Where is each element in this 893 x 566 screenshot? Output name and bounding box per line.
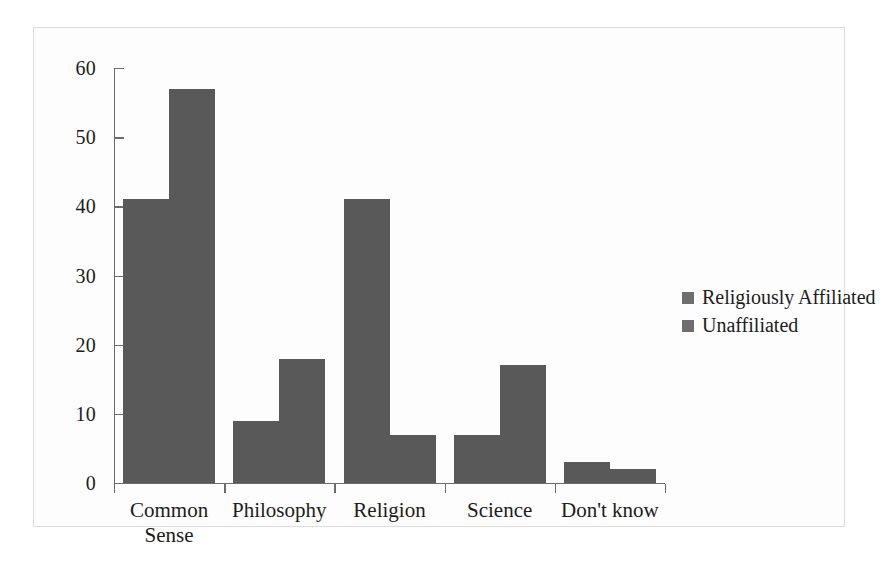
- bar-group: [454, 68, 546, 483]
- x-axis-tick: [665, 484, 666, 493]
- legend-label: Unaffiliated: [702, 314, 798, 337]
- bar-group: [233, 68, 325, 483]
- y-axis-tick-label: 50: [75, 126, 96, 149]
- legend-swatch-icon: [682, 320, 694, 332]
- bar: [169, 89, 215, 483]
- x-axis-tick: [114, 484, 115, 493]
- y-axis-tick-label: 20: [75, 333, 96, 356]
- y-axis-tick-label: 10: [75, 402, 96, 425]
- bar: [610, 469, 656, 483]
- bar: [344, 199, 390, 483]
- y-axis-tick: [115, 483, 124, 484]
- bar: [390, 435, 436, 483]
- legend-swatch-icon: [682, 292, 694, 304]
- x-axis-tick: [555, 484, 556, 493]
- bar: [564, 462, 610, 483]
- x-axis-category-label: Science: [445, 498, 555, 523]
- x-axis-category-label: Religion: [334, 498, 444, 523]
- legend-item: Unaffiliated: [682, 314, 876, 337]
- bar-group: [344, 68, 436, 483]
- x-axis-category-label: Don't know: [555, 498, 665, 523]
- legend-item: Religiously Affiliated: [682, 286, 876, 309]
- x-axis-category-label: Common Sense: [114, 498, 224, 548]
- legend: Religiously AffiliatedUnaffiliated: [682, 286, 876, 342]
- legend-label: Religiously Affiliated: [702, 286, 876, 309]
- bar-group: [564, 68, 656, 483]
- bar: [123, 199, 169, 483]
- y-axis-tick-label: 40: [75, 195, 96, 218]
- bar: [233, 421, 279, 483]
- bar: [454, 435, 500, 483]
- bar: [279, 359, 325, 484]
- y-axis-tick-label: 30: [75, 264, 96, 287]
- x-axis-tick: [334, 484, 335, 493]
- plot-area: [114, 68, 664, 483]
- y-axis-tick-label: 0: [86, 472, 96, 495]
- x-axis-tick: [445, 484, 446, 493]
- x-axis-tick: [224, 484, 225, 493]
- x-axis-line: [114, 483, 665, 484]
- y-axis-tick-labels: 0102030405060: [34, 28, 96, 528]
- bar-group: [123, 68, 215, 483]
- bar: [500, 365, 546, 483]
- y-axis-tick-label: 60: [75, 57, 96, 80]
- x-axis-category-label: Philosophy: [224, 498, 334, 523]
- figure-frame: 0102030405060 Common SensePhilosophyReli…: [33, 27, 845, 527]
